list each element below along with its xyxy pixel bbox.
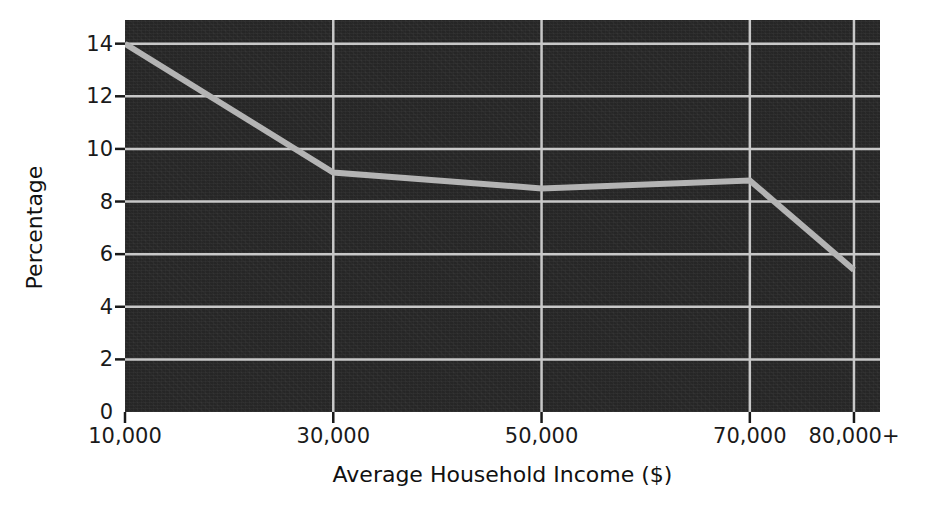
x-tick-label: 70,000 xyxy=(713,426,786,447)
y-tick-label: 8 xyxy=(100,191,113,212)
x-tick-label: 80,000+ xyxy=(808,426,899,447)
y-axis-title: Percentage xyxy=(22,98,47,358)
x-tick-label: 50,000 xyxy=(505,426,578,447)
y-tick-label: 6 xyxy=(100,244,113,265)
y-axis-tick-marks xyxy=(115,44,125,360)
y-tick-label: 10 xyxy=(86,138,113,159)
line-chart-figure: 14121086420 10,00030,00050,00070,00080,0… xyxy=(0,0,947,507)
x-tick-label: 10,000 xyxy=(88,426,161,447)
x-tick-label: 30,000 xyxy=(297,426,370,447)
y-tick-label: 14 xyxy=(86,33,113,54)
x-axis-tick-marks xyxy=(125,412,854,423)
x-axis-title: Average Household Income ($) xyxy=(125,462,880,487)
y-tick-label: 12 xyxy=(86,86,113,107)
y-tick-label: 0 xyxy=(100,402,113,423)
x-axis-tick-labels: 10,00030,00050,00070,00080,000+ xyxy=(0,426,947,456)
y-tick-label: 2 xyxy=(100,349,113,370)
y-tick-label: 4 xyxy=(100,296,113,317)
